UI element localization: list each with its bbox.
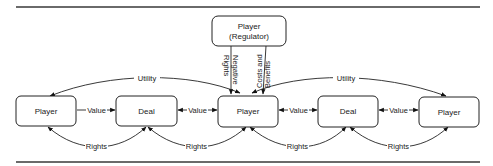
player-right-node: Player: [419, 97, 479, 127]
svg-text:Rights: Rights: [222, 55, 231, 77]
deal-left-label: Deal: [138, 107, 155, 116]
deal-left-node: Deal: [116, 96, 177, 126]
regulator-node: Player (Regulator): [212, 16, 286, 46]
rights-label-3: Rights: [287, 142, 309, 151]
player-center-node: Player: [218, 96, 278, 127]
regulator-title: Player: [238, 22, 261, 31]
deal-right-label: Deal: [340, 107, 357, 116]
value-label-2: Value: [188, 106, 207, 115]
utility-right-label: Utility: [337, 74, 356, 83]
costs-benefits-label: Costs and Benefits: [255, 54, 273, 88]
svg-text:Benefits: Benefits: [263, 61, 272, 88]
utility-left-label: Utility: [138, 74, 157, 83]
rights-label-1: Rights: [86, 142, 108, 151]
player-right-label: Player: [438, 108, 461, 117]
value-label-1: Value: [87, 106, 106, 115]
rights-label-4: Rights: [388, 142, 410, 151]
player-center-label: Player: [237, 107, 260, 116]
rights-label-2: Rights: [186, 142, 208, 151]
player-left-node: Player: [16, 96, 76, 126]
negative-rights-label: Negative Rights: [222, 55, 240, 85]
value-label-4: Value: [389, 106, 408, 115]
deal-right-node: Deal: [318, 96, 378, 127]
player-left-label: Player: [35, 107, 58, 116]
regulator-subtitle: (Regulator): [229, 32, 269, 41]
value-exchange-diagram: Utility Utility Negative Rights Costs an…: [0, 0, 493, 166]
value-label-3: Value: [289, 106, 308, 115]
